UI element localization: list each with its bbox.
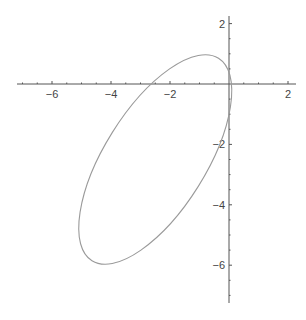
x-tick-labels: −6−4−22 [46,88,291,100]
y-tick-label: 2 [219,18,225,30]
x-tick-label: −4 [105,88,118,100]
axes [17,16,296,303]
x-tick-label: 2 [285,88,291,100]
y-tick-label: −6 [212,259,225,271]
plot-area: −6−4−22 2−2−4−6 [0,0,306,320]
x-tick-label: −6 [46,88,59,100]
y-tick-label: −4 [212,199,225,211]
x-tick-label: −2 [164,88,177,100]
